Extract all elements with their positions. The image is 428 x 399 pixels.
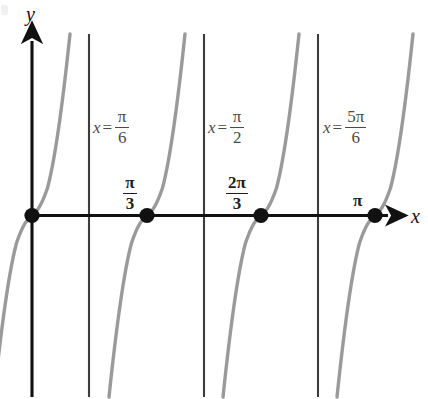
fraction: π 6 [115, 108, 129, 146]
fraction-numerator: 2π [226, 174, 248, 192]
tangent-graph-figure: y x x = π 6 x = π 2 x = 5π 6 π [0, 0, 428, 399]
equals-sign: = [333, 119, 343, 136]
fraction-numerator: π [116, 108, 129, 126]
point-zero [24, 208, 39, 223]
fraction-denominator: 3 [124, 195, 137, 213]
axes [32, 41, 388, 397]
asymptote-label-pi-over-6: x = π 6 [93, 108, 129, 146]
fraction-numerator: π [231, 108, 244, 126]
point-label-pi: π [353, 192, 362, 209]
fraction-numerator: 5π [345, 108, 366, 126]
asymptote-label-pi-over-2: x = π 2 [208, 108, 244, 146]
asymptote-label-lhs: x [93, 119, 101, 136]
asymptote-label-lhs: x [208, 119, 216, 136]
fraction: 5π 6 [345, 108, 366, 146]
asymptote-label-5pi-over-6: x = 5π 6 [323, 108, 366, 146]
fraction: π 2 [230, 108, 244, 146]
y-axis-label: y [26, 4, 35, 24]
point-2pi-over-3 [253, 208, 268, 223]
equals-sign: = [103, 119, 113, 136]
fraction-denominator: 6 [349, 129, 362, 147]
point-label-pi-over-3: π 3 [123, 174, 137, 213]
equals-sign: = [218, 119, 228, 136]
fraction-denominator: 2 [231, 129, 244, 147]
x-axis-label: x [411, 206, 420, 226]
point-pi [367, 208, 382, 223]
fraction: π 3 [123, 174, 137, 213]
point-pi-over-3 [139, 208, 154, 223]
fraction-numerator: π [123, 174, 136, 192]
fraction: 2π 3 [226, 174, 248, 213]
plot-canvas [0, 0, 428, 399]
fraction-denominator: 3 [231, 195, 244, 213]
point-label-2pi-over-3: 2π 3 [226, 174, 248, 213]
asymptote-label-lhs: x [323, 119, 331, 136]
fraction-denominator: 6 [116, 129, 129, 147]
